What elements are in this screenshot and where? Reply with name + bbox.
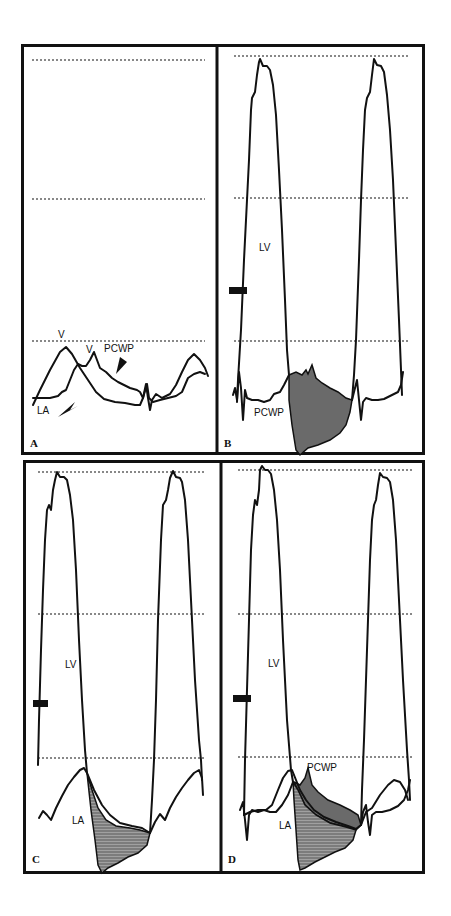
lv-trace: [237, 59, 402, 402]
v-wave-label-la: V: [58, 329, 65, 340]
top-frame-group: [23, 45, 424, 454]
pcwp-trace: [33, 347, 208, 410]
pcwp-label: PCWP: [104, 343, 134, 354]
la-label: LA: [279, 820, 292, 831]
hemodynamic-figure: V V PCWP LA A LV PCWP B LV: [0, 0, 451, 916]
lv-trace: [38, 471, 202, 833]
panel-d: LV PCWP LA D: [228, 466, 412, 870]
la-arrowhead-icon: [58, 402, 78, 417]
v-wave-label-pcwp: V: [86, 344, 93, 355]
panel-label-c: C: [32, 853, 40, 865]
la-label: LA: [37, 405, 50, 416]
scale-marker: [229, 287, 247, 294]
scale-marker: [233, 695, 251, 702]
panel-b: LV PCWP B: [224, 56, 410, 455]
gradient-shaded-area: [289, 365, 352, 455]
pcwp-label: PCWP: [307, 762, 337, 773]
panel-c: LV LA C: [32, 471, 205, 873]
la-label: LA: [72, 815, 85, 826]
scale-marker: [33, 700, 48, 707]
la-trace: [39, 768, 203, 833]
panel-label-d: D: [228, 853, 236, 865]
panel-label-a: A: [30, 437, 38, 449]
top-frame: [23, 46, 424, 454]
panel-label-b: B: [224, 437, 232, 449]
panel-a: V V PCWP LA A: [30, 60, 208, 449]
lv-label: LV: [259, 242, 271, 253]
lv-label: LV: [65, 659, 77, 670]
pcwp-arrowhead-icon: [116, 357, 127, 374]
lv-label: LV: [268, 658, 280, 669]
pcwp-label: PCWP: [254, 407, 284, 418]
